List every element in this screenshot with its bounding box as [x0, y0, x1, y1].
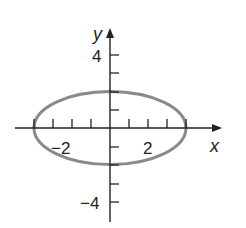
x-tick-label-neg2: −2	[51, 139, 70, 158]
y-axis-label: y	[91, 24, 103, 44]
x-tick-label-2: 2	[143, 139, 152, 158]
chart-canvas: −2 2 4 −4 x y	[0, 0, 246, 228]
y-tick-label-4: 4	[92, 47, 101, 66]
y-tick-label-neg4: −4	[80, 194, 99, 213]
x-axis-label: x	[209, 136, 220, 156]
